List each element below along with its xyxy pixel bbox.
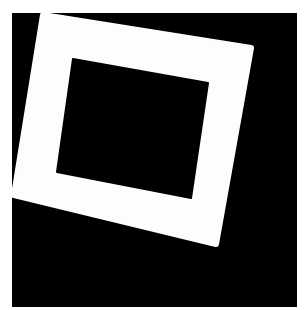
frame-hole: [57, 59, 208, 198]
image-canvas: [0, 0, 304, 310]
scene: [0, 0, 304, 310]
